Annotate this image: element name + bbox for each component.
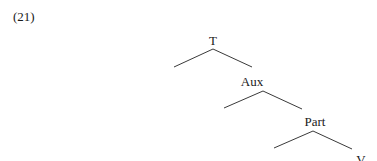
node-part: Part	[305, 115, 326, 129]
edge-t-left	[174, 49, 213, 67]
edge-part-v	[313, 131, 352, 149]
edge-aux-part	[263, 91, 302, 109]
syntax-tree: T Aux Part V	[0, 0, 377, 161]
node-v: V	[356, 153, 365, 161]
tree-edges	[0, 0, 377, 161]
edge-t-aux	[213, 49, 252, 67]
node-t: T	[209, 34, 217, 48]
node-aux: Aux	[241, 75, 263, 89]
edge-part-left	[274, 131, 313, 148]
edge-aux-left	[224, 91, 263, 108]
